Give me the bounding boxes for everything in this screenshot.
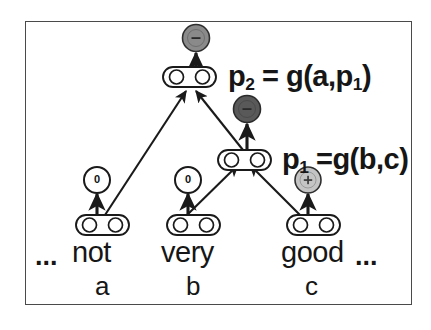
p1-sentiment-node — [234, 96, 261, 123]
variable-label-b: b — [186, 273, 200, 299]
equation-p1: p1 =g(b,c) — [282, 145, 408, 174]
word-not: not — [72, 238, 111, 267]
edge-p1-to-p2 — [196, 91, 243, 150]
leading-ellipsis: ... — [35, 243, 58, 270]
equation-p2-lhs-subscript: 2 — [245, 74, 254, 94]
vector-box-c — [287, 215, 340, 235]
equation-p2-rhs: = g(a,p — [254, 60, 352, 92]
variable-label-a: a — [95, 273, 109, 299]
equation-p2-rhs-subscript: 1 — [353, 74, 362, 94]
equation-p1-lhs: p — [282, 143, 299, 175]
equation-p1-rhs: =g(b,c) — [308, 143, 408, 175]
vector-box-p2 — [163, 67, 216, 87]
equation-p1-lhs-subscript: 1 — [299, 157, 308, 177]
leaf-a-sentiment-label: 0 — [87, 174, 107, 185]
equation-p2-lhs: p — [228, 60, 245, 92]
equation-p2: p2 = g(a,p1) — [228, 62, 371, 91]
figure-container: 0 0 p2 = g(a,p1) p1 =g(b,c) ... not very… — [0, 0, 431, 330]
p2-sentiment-node — [183, 25, 210, 52]
leaf-b-sentiment-label: 0 — [178, 174, 198, 185]
variable-label-c: c — [305, 273, 318, 299]
trailing-ellipsis: ... — [355, 243, 378, 270]
equation-p2-rhs-tail: ) — [362, 60, 371, 92]
vector-box-b — [167, 215, 220, 235]
edge-a-to-p2 — [105, 91, 186, 215]
word-very: very — [161, 238, 214, 267]
vector-box-p1 — [218, 150, 271, 170]
word-good: good — [281, 238, 344, 267]
vector-box-a — [76, 215, 129, 235]
